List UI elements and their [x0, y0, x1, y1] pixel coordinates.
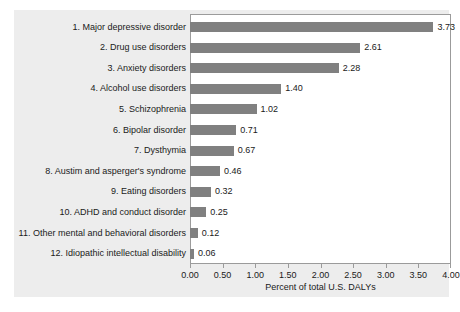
axis-tick-label: 0.00 — [181, 269, 199, 281]
category-label: 7. Dysthymia — [16, 143, 186, 158]
chart-figure: 1. Major depressive disorder2. Drug use … — [0, 0, 460, 312]
value-axis: 0.000.501.001.502.002.503.003.504.00 — [190, 264, 451, 284]
bar-row: 1.40 — [190, 79, 451, 100]
bar-value-label: 1.40 — [285, 81, 303, 96]
bar — [190, 249, 194, 259]
bar-value-label: 0.25 — [210, 205, 228, 220]
axis-tick — [353, 264, 354, 268]
bar-row: 1.02 — [190, 99, 451, 120]
axis-tick-label: 0.50 — [214, 269, 232, 281]
category-label: 3. Anxiety disorders — [16, 61, 186, 76]
bar-value-label: 0.67 — [238, 143, 256, 158]
bar-value-label: 3.73 — [437, 20, 455, 35]
category-label: 1. Major depressive disorder — [16, 20, 186, 35]
axis-tick — [321, 264, 322, 268]
bar-row: 0.25 — [190, 202, 451, 223]
axis-tick-label: 2.50 — [344, 269, 362, 281]
bar — [190, 84, 281, 94]
bar-value-label: 0.71 — [240, 123, 258, 138]
axis-tick — [255, 264, 256, 268]
bar — [190, 146, 234, 156]
axis-tick — [190, 264, 191, 268]
axis-tick — [418, 264, 419, 268]
bar-row: 0.71 — [190, 120, 451, 141]
axis-tick-label: 2.00 — [312, 269, 330, 281]
bar — [190, 187, 211, 197]
axis-tick — [223, 264, 224, 268]
bar-value-label: 2.28 — [343, 61, 361, 76]
bar-value-label: 1.02 — [261, 102, 279, 117]
bar-value-label: 0.32 — [215, 184, 233, 199]
axis-tick-label: 3.00 — [377, 269, 395, 281]
bar — [190, 43, 360, 53]
x-axis-title: Percent of total U.S. DALYs — [190, 282, 451, 292]
bar-value-label: 2.61 — [364, 40, 382, 55]
bar-row: 0.06 — [190, 244, 451, 265]
bar — [190, 228, 198, 238]
bar — [190, 63, 339, 73]
bar-row: 0.12 — [190, 223, 451, 244]
category-label: 2. Drug use disorders — [16, 40, 186, 55]
axis-tick — [386, 264, 387, 268]
bar-row: 2.28 — [190, 58, 451, 79]
category-axis-labels: 1. Major depressive disorder2. Drug use … — [14, 14, 186, 264]
category-label: 4. Alcohol use disorders — [16, 81, 186, 96]
bar-value-label: 0.06 — [198, 246, 216, 261]
category-label: 8. Austim and asperger's syndrome — [16, 164, 186, 179]
plot-area: 3.732.612.281.401.020.710.670.460.320.25… — [190, 14, 451, 264]
bar — [190, 166, 220, 176]
category-label: 12. Idiopathic intellectual disability — [16, 246, 186, 261]
axis-tick-label: 1.50 — [279, 269, 297, 281]
category-label: 11. Other mental and behavioral disorder… — [16, 226, 186, 241]
bar-value-label: 0.46 — [224, 164, 242, 179]
bar-value-label: 0.12 — [202, 226, 220, 241]
axis-tick — [450, 264, 451, 268]
category-label: 9. Eating disorders — [16, 184, 186, 199]
bar-row: 0.32 — [190, 182, 451, 203]
bar-row: 0.67 — [190, 141, 451, 162]
category-label: 10. ADHD and conduct disorder — [16, 205, 186, 220]
bar-row: 3.73 — [190, 17, 451, 38]
bar-row: 0.46 — [190, 161, 451, 182]
bar — [190, 22, 433, 32]
bar — [190, 125, 236, 135]
axis-tick-label: 3.50 — [410, 269, 428, 281]
category-label: 5. Schizophrenia — [16, 102, 186, 117]
axis-tick-label: 1.00 — [246, 269, 264, 281]
axis-tick — [288, 264, 289, 268]
figure-panel: 1. Major depressive disorder2. Drug use … — [14, 10, 449, 297]
bar — [190, 104, 257, 114]
bar — [190, 207, 206, 217]
axis-tick-label: 4.00 — [442, 269, 460, 281]
category-label: 6. Bipolar disorder — [16, 123, 186, 138]
bar-row: 2.61 — [190, 38, 451, 59]
